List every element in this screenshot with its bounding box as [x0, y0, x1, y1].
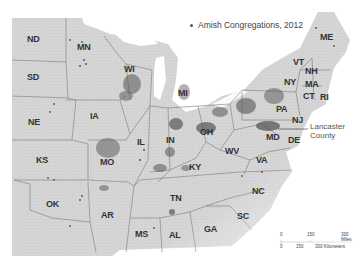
scale-mi-150: 150: [307, 232, 315, 237]
dot-marker-icon: [190, 24, 193, 27]
scale-km-300: 300 Kilometers: [315, 244, 345, 249]
state-label-mi: MI: [178, 88, 187, 98]
state-label-ny: NY: [284, 77, 296, 87]
state-label-ia: IA: [90, 111, 98, 121]
scale-labels: 0 150 300 Miles 0 150 300 Kilometers: [279, 228, 359, 254]
state-label-ar: AR: [101, 210, 113, 220]
state-label-tn: TN: [170, 193, 181, 203]
state-label-in: IN: [166, 135, 174, 145]
map-legend: Amish Congregations, 2012: [190, 20, 303, 30]
state-label-al: AL: [169, 230, 180, 240]
state-label-wv: WV: [225, 146, 239, 156]
callout-line2: County: [310, 131, 345, 140]
state-label-sc: SC: [237, 211, 249, 221]
callout-line1: Lancaster: [310, 122, 345, 131]
state-label-sd: SD: [27, 72, 39, 82]
state-label-pa: PA: [276, 104, 287, 114]
state-label-ri: RI: [320, 92, 328, 102]
state-label-va: VA: [256, 155, 267, 165]
state-label-ma: MA: [305, 79, 318, 89]
state-label-nj: NJ: [292, 115, 303, 125]
state-label-ga: GA: [204, 224, 217, 234]
scale-km-150: 150: [296, 244, 304, 249]
state-label-ky: KY: [189, 162, 201, 172]
state-label-ne: NE: [28, 117, 40, 127]
state-label-nd: ND: [27, 34, 39, 44]
state-label-md: MD: [266, 132, 279, 142]
state-label-ms: MS: [135, 229, 148, 239]
state-label-ok: OK: [46, 199, 59, 209]
scale-mi-300: 300 Miles: [341, 232, 359, 242]
state-label-oh: OH: [200, 127, 213, 137]
state-label-mn: MN: [77, 42, 90, 52]
state-label-vt: VT: [293, 57, 304, 67]
scale-mi-0: 0: [280, 232, 283, 237]
state-label-me: ME: [320, 32, 333, 42]
legend-label: Amish Congregations, 2012: [198, 20, 303, 30]
state-label-il: IL: [137, 137, 144, 147]
state-label-de: DE: [288, 135, 300, 145]
lancaster-county-callout: Lancaster County: [310, 122, 345, 140]
scale-km-0: 0: [280, 244, 283, 249]
state-label-mo: MO: [100, 157, 114, 167]
state-label-wi: WI: [124, 64, 134, 74]
state-label-ks: KS: [36, 155, 48, 165]
state-label-nh: NH: [305, 66, 317, 76]
state-label-nc: NC: [252, 186, 264, 196]
map-canvas: [0, 0, 362, 256]
state-label-ct: CT: [303, 91, 314, 101]
